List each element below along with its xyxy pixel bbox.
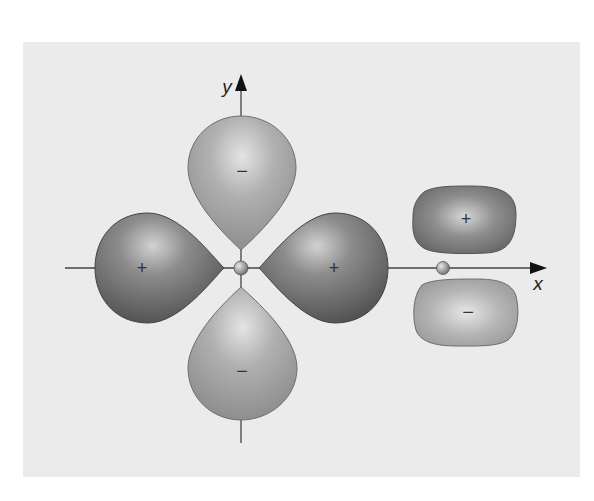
d-orbital-lobe-left: + xyxy=(95,213,224,323)
x-axis-label: x xyxy=(532,273,544,294)
p-orbital-lobe-bottom: − xyxy=(414,279,518,346)
d-orbital-lobe-right: + xyxy=(259,213,388,323)
y-axis-label: y xyxy=(220,76,233,97)
phase-sign: − xyxy=(236,360,248,382)
orbital-diagram: − − + + + − y x xyxy=(0,0,594,501)
p-orbital-lobe-top: + xyxy=(413,186,516,254)
d-orbital-lobe-bottom: − xyxy=(188,287,297,420)
phase-sign: − xyxy=(462,301,474,323)
phase-sign: − xyxy=(236,160,248,182)
nucleus-d xyxy=(234,261,248,275)
phase-sign: + xyxy=(329,258,340,278)
phase-sign: + xyxy=(461,209,472,229)
nucleus-p xyxy=(437,262,450,275)
phase-sign: + xyxy=(137,258,148,278)
y-axis-arrow-icon xyxy=(235,74,247,91)
d-orbital-lobe-top: − xyxy=(188,116,296,250)
